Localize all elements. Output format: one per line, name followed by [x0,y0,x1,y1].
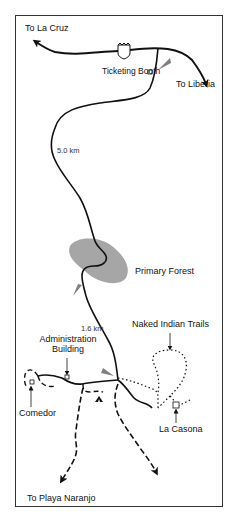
campsite-trail [83,384,103,392]
label-to-la-cruz: To La Cruz [25,23,69,33]
administration-building-icon [65,375,69,379]
comedor-icon [30,380,34,384]
road-southeast [118,380,152,408]
label-administration-line2: Building [38,344,98,354]
label-distance-lower: 1.6 km [81,324,104,334]
label-administration-line1: Administration [38,334,98,344]
label-distance-upper: 5.0 km [57,146,80,156]
label-ticketing-booth: Ticketing Booth [102,66,160,76]
junction-marker-icon [101,368,114,376]
road-to-administration [38,375,118,384]
label-la-casona: La Casona [159,424,203,434]
label-to-playa-naranjo: To Playa Naranjo [27,493,96,503]
campsite-icon [95,396,103,402]
trail-to-playa-naranjo-west [62,388,83,480]
naked-indian-trails [118,350,190,408]
highway-shield-icon [118,43,130,59]
label-primary-forest: Primary Forest [135,266,194,276]
label-to-liberia: To Liberia [176,79,215,89]
highway-to-la-cruz [36,42,118,54]
primary-forest-area [69,239,128,284]
label-naked-indian-trails: Naked Indian Trails [132,319,209,329]
la-casona-icon [173,402,179,408]
label-administration-building: Administration Building [38,334,98,354]
comedor-loop-trail [25,370,57,387]
label-comedor: Comedor [19,408,56,418]
forest-marker-icon [73,284,82,296]
trail-to-playa-naranjo-east [115,384,156,472]
